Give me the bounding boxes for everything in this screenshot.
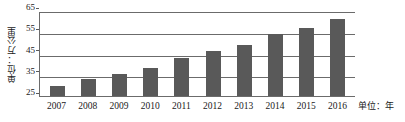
bar-2010 (143, 68, 158, 96)
y-tick-55: 55 (26, 24, 35, 33)
bar-2007 (50, 86, 65, 96)
bar-slot-2011 (166, 13, 197, 96)
bar-slot-2013 (229, 13, 260, 96)
x-tick-2012: 2012 (197, 99, 228, 113)
bar-2015 (299, 28, 314, 96)
bar-chart: 单位：万公里 65 55 45 35 25 (0, 0, 405, 122)
bar-slot-2010 (135, 13, 166, 96)
y-axis-tick-labels: 65 55 45 35 25 (18, 7, 36, 99)
y-tick-45: 45 (26, 46, 35, 55)
bar-2009 (112, 74, 127, 96)
x-tick-2015: 2015 (291, 99, 322, 113)
x-tick-2013: 2013 (228, 99, 259, 113)
bar-slot-2012 (197, 13, 228, 96)
bar-2013 (237, 45, 252, 96)
y-tick-35-label: 35 (26, 66, 35, 76)
x-axis-tick-labels: 2007 2008 2009 2010 2011 2012 2013 2014 … (39, 99, 355, 113)
y-tick-65-mark (36, 8, 39, 9)
plot-area (39, 12, 355, 97)
bar-slot-2014 (260, 13, 291, 96)
bars-layer (40, 13, 355, 96)
bar-slot-2007 (42, 13, 73, 96)
y-tick-45-label: 45 (26, 45, 35, 55)
bar-2014 (268, 34, 283, 96)
bar-slot-2009 (104, 13, 135, 96)
bar-slot-2008 (73, 13, 104, 96)
bar-2016 (330, 19, 345, 96)
bar-slot-2015 (291, 13, 322, 96)
y-tick-25-label: 25 (26, 87, 35, 97)
bar-2012 (206, 51, 221, 96)
y-tick-25: 25 (26, 88, 35, 97)
y-tick-65-label: 65 (26, 2, 35, 12)
bar-2008 (81, 79, 96, 96)
x-tick-2011: 2011 (166, 99, 197, 113)
y-tick-65: 65 (26, 3, 35, 12)
x-tick-2010: 2010 (135, 99, 166, 113)
y-tick-35: 35 (26, 67, 35, 76)
bar-slot-2016 (322, 13, 353, 96)
x-tick-2014: 2014 (259, 99, 290, 113)
bar-2011 (174, 58, 189, 96)
x-tick-2016: 2016 (322, 99, 353, 113)
x-tick-2009: 2009 (103, 99, 134, 113)
y-tick-55-label: 55 (26, 23, 35, 33)
x-axis-unit-label: 单位：年 (358, 99, 394, 113)
x-tick-2007: 2007 (41, 99, 72, 113)
x-tick-2008: 2008 (72, 99, 103, 113)
y-axis-title-label: 单位：万公里 (7, 26, 16, 83)
